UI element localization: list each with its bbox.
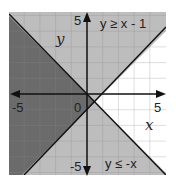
y-tick-neg5: -5 xyxy=(70,159,82,174)
inequality-label-2: y ≤ -x xyxy=(105,156,137,171)
inequality-graph: -5 5 5 -5 0 y x y ≥ x - 1 y ≤ -x xyxy=(0,0,176,186)
x-tick-pos5: 5 xyxy=(154,100,161,115)
x-axis-arrow-right-icon xyxy=(156,90,166,98)
x-axis-label: x xyxy=(145,116,154,134)
y-axis-label: y xyxy=(55,30,65,48)
inequality-label-1: y ≥ x - 1 xyxy=(100,16,146,31)
x-tick-neg5: -5 xyxy=(12,100,24,115)
origin-label: 0 xyxy=(74,100,81,115)
y-tick-pos5: 5 xyxy=(74,13,81,28)
